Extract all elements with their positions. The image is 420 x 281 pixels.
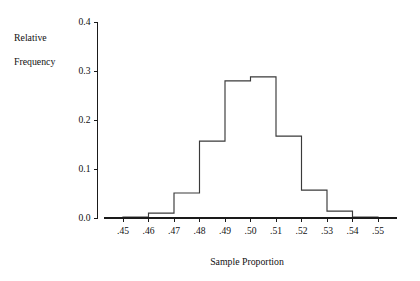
x-tick-label: .47 — [168, 225, 180, 236]
x-tick-label: .55 — [372, 225, 384, 236]
x-tick-label: .46 — [143, 225, 155, 236]
histogram-bars — [123, 77, 378, 218]
x-tick-label: .50 — [245, 225, 257, 236]
y-tick-label: 0.1 — [79, 163, 91, 174]
y-axis-tick-labels: 0.00.10.20.30.4 — [79, 16, 91, 223]
x-tick-label: .54 — [347, 225, 359, 236]
y-axis-title-line1: Relative — [14, 32, 47, 43]
x-tick-label: .45 — [117, 225, 129, 236]
x-tick-label: .48 — [194, 225, 206, 236]
x-tick-label: .49 — [219, 225, 231, 236]
y-tick-label: 0.4 — [79, 16, 91, 27]
x-tick-label: .51 — [270, 225, 282, 236]
y-tick-label: 0.0 — [79, 212, 91, 223]
x-axis-title: Sample Proportion — [210, 256, 284, 267]
y-axis-title-line2: Frequency — [14, 56, 55, 67]
y-axis-ticks — [94, 22, 98, 218]
y-tick-label: 0.2 — [79, 114, 91, 125]
histogram-plot: 0.00.10.20.30.4 .45.46.47.48.49.50.51.52… — [0, 0, 420, 281]
y-tick-label: 0.3 — [79, 65, 91, 76]
x-axis-ticks — [123, 218, 378, 222]
x-tick-label: .53 — [321, 225, 333, 236]
histogram-figure: 0.00.10.20.30.4 .45.46.47.48.49.50.51.52… — [0, 0, 420, 281]
x-axis-tick-labels: .45.46.47.48.49.50.51.52.53.54.55 — [117, 225, 384, 236]
x-tick-label: .52 — [296, 225, 308, 236]
